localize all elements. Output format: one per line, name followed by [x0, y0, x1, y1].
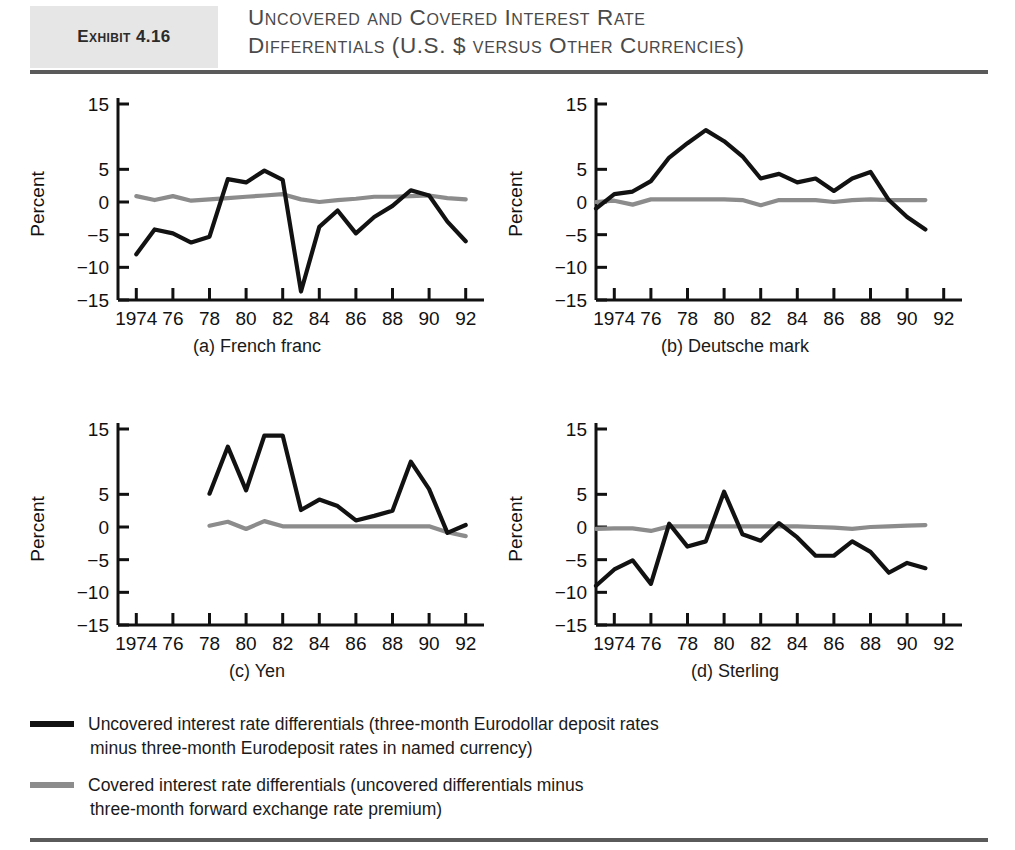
- x-axis-tick-label: 86: [823, 633, 844, 654]
- series-line-uncovered: [596, 130, 925, 229]
- x-axis-tick-label: 82: [272, 633, 293, 654]
- y-axis-tick-label: −15: [77, 290, 109, 311]
- x-axis-tick-label: 90: [897, 308, 918, 329]
- figure-legend: Uncovered interest rate differentials (t…: [30, 712, 980, 834]
- y-axis-title: Percent: [27, 171, 48, 237]
- x-axis-tick-label: 92: [933, 633, 954, 654]
- y-axis-tick-label: 0: [98, 192, 109, 213]
- x-axis-tick-label: 1974: [115, 633, 158, 654]
- chart-caption-a: (a) French franc: [22, 336, 492, 357]
- series-line-covered: [596, 525, 925, 531]
- series-line-covered: [210, 521, 466, 536]
- x-axis-tick-label: 80: [714, 308, 735, 329]
- legend-uncovered-line-2: minus three-month Eurodeposit rates in n…: [88, 736, 659, 760]
- plot-b: 1550−5−10−151974767880828486889092Percen…: [505, 94, 962, 329]
- chart-caption-c: (c) Yen: [22, 661, 492, 682]
- x-axis-tick-label: 1974: [593, 308, 636, 329]
- legend-uncovered-line-1: Uncovered interest rate differentials (t…: [88, 712, 659, 736]
- y-axis-tick-label: 15: [88, 94, 109, 115]
- x-axis-tick-label: 88: [860, 308, 881, 329]
- y-axis-tick-label: 15: [566, 419, 587, 440]
- x-axis-tick-label: 88: [382, 308, 403, 329]
- x-axis-tick-label: 92: [455, 308, 476, 329]
- y-axis-tick-label: −15: [77, 615, 109, 636]
- x-axis-tick-label: 88: [382, 633, 403, 654]
- x-axis-tick-label: 84: [787, 633, 809, 654]
- legend-entry-uncovered: Uncovered interest rate differentials (t…: [30, 712, 980, 760]
- series-line-uncovered: [596, 492, 925, 586]
- y-axis-title: Percent: [505, 171, 526, 237]
- y-axis-tick-label: 0: [576, 517, 587, 538]
- x-axis-tick-label: 1974: [593, 633, 636, 654]
- exhibit-title: Uncovered and Covered Interest Rate Diff…: [248, 4, 988, 60]
- y-axis-tick-label: 15: [88, 419, 109, 440]
- plot-a: 1550−5−10−151974767880828486889092Percen…: [27, 94, 484, 329]
- exhibit-tag-label: Exhibit 4.16: [77, 27, 170, 47]
- legend-swatch-uncovered-line: [30, 721, 74, 727]
- chart-svg-a: 1550−5−10−151974767880828486889092Percen…: [22, 84, 492, 334]
- x-axis-tick-label: 84: [309, 633, 331, 654]
- chart-svg-b: 1550−5−10−151974767880828486889092Percen…: [500, 84, 970, 334]
- x-axis-tick-label: 78: [677, 308, 698, 329]
- y-axis-tick-label: −10: [555, 257, 587, 278]
- x-axis-tick-label: 92: [455, 633, 476, 654]
- x-axis-tick-label: 90: [419, 633, 440, 654]
- series-line-covered: [136, 194, 465, 202]
- chart-panel-sterling: 1550−5−10−151974767880828486889092Percen…: [500, 409, 970, 709]
- x-axis-tick-label: 90: [419, 308, 440, 329]
- x-axis-tick-label: 76: [640, 633, 661, 654]
- chart-svg-d: 1550−5−10−151974767880828486889092Percen…: [500, 409, 970, 659]
- x-axis-tick-label: 84: [787, 308, 809, 329]
- y-axis-tick-label: 5: [98, 159, 109, 180]
- chart-caption-b: (b) Deutsche mark: [500, 336, 970, 357]
- y-axis-tick-label: −15: [555, 290, 587, 311]
- x-axis-tick-label: 86: [345, 633, 366, 654]
- y-axis-tick-label: −15: [555, 615, 587, 636]
- exhibit-header: Exhibit 4.16 Uncovered and Covered Inter…: [0, 0, 1015, 78]
- x-axis-tick-label: 76: [162, 308, 183, 329]
- chart-caption-d: (d) Sterling: [500, 661, 970, 682]
- footer-divider: [30, 838, 988, 842]
- plot-c: 1550−5−10−151974767880828486889092Percen…: [27, 419, 484, 654]
- legend-covered-line-2: three-month forward exchange rate premiu…: [88, 797, 583, 821]
- y-axis-title: Percent: [505, 496, 526, 562]
- x-axis-tick-label: 90: [897, 633, 918, 654]
- series-line-uncovered: [136, 171, 465, 292]
- x-axis-tick-label: 92: [933, 308, 954, 329]
- y-axis-tick-label: −10: [77, 582, 109, 603]
- x-axis-tick-label: 82: [750, 308, 771, 329]
- x-axis-tick-label: 86: [345, 308, 366, 329]
- chart-panel-yen: 1550−5−10−151974767880828486889092Percen…: [22, 409, 492, 709]
- x-axis-tick-label: 76: [640, 308, 661, 329]
- y-axis-tick-label: 5: [576, 484, 587, 505]
- chart-svg-c: 1550−5−10−151974767880828486889092Percen…: [22, 409, 492, 659]
- x-axis-tick-label: 80: [236, 633, 257, 654]
- x-axis-tick-label: 84: [309, 308, 331, 329]
- legend-swatch-covered-line: [30, 782, 74, 788]
- y-axis-tick-label: −5: [565, 225, 587, 246]
- x-axis-tick-label: 76: [162, 633, 183, 654]
- x-axis-tick-label: 82: [750, 633, 771, 654]
- y-axis-tick-label: −10: [555, 582, 587, 603]
- legend-covered-line-1: Covered interest rate differentials (unc…: [88, 773, 583, 797]
- chart-panel-deutsche-mark: 1550−5−10−151974767880828486889092Percen…: [500, 84, 970, 384]
- y-axis-tick-label: −5: [87, 550, 109, 571]
- y-axis-tick-label: 5: [98, 484, 109, 505]
- legend-text-covered: Covered interest rate differentials (unc…: [88, 773, 583, 821]
- y-axis-tick-label: 0: [576, 192, 587, 213]
- y-axis-tick-label: 5: [576, 159, 587, 180]
- x-axis-tick-label: 86: [823, 308, 844, 329]
- header-divider: [30, 70, 988, 74]
- x-axis-tick-label: 80: [714, 633, 735, 654]
- x-axis-tick-label: 78: [199, 633, 220, 654]
- y-axis-title: Percent: [27, 496, 48, 562]
- chart-grid: 1550−5−10−151974767880828486889092Percen…: [0, 84, 1015, 704]
- y-axis-tick-label: −5: [87, 225, 109, 246]
- x-axis-tick-label: 78: [677, 633, 698, 654]
- x-axis-tick-label: 80: [236, 308, 257, 329]
- chart-panel-french-franc: 1550−5−10−151974767880828486889092Percen…: [22, 84, 492, 384]
- legend-text-uncovered: Uncovered interest rate differentials (t…: [88, 712, 659, 760]
- x-axis-tick-label: 88: [860, 633, 881, 654]
- x-axis-tick-label: 78: [199, 308, 220, 329]
- legend-entry-covered: Covered interest rate differentials (unc…: [30, 773, 980, 821]
